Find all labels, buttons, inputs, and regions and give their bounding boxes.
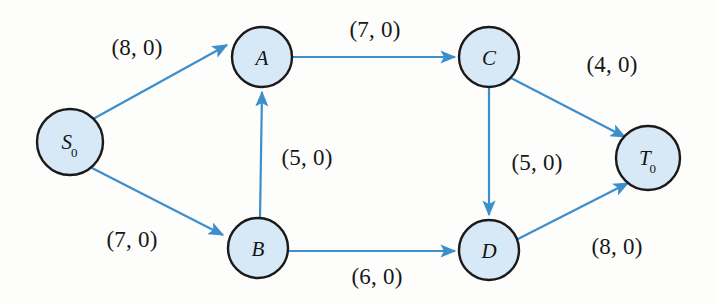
nodes-layer [37, 27, 680, 280]
edge-c-t0 [511, 78, 625, 137]
edge-d-t0 [516, 183, 628, 240]
node-a[interactable] [232, 27, 292, 87]
node-c[interactable] [459, 27, 519, 87]
edge-s0-b [90, 167, 223, 235]
node-d[interactable] [459, 220, 519, 280]
network-graph-canvas [0, 0, 718, 303]
edge-s0-a [93, 45, 227, 119]
network-flow-diagram: S0 A B C D T0 (8, 0) (7, 0) (7, 0) (5, 0… [0, 0, 718, 303]
node-t0[interactable] [616, 126, 680, 190]
node-b[interactable] [228, 218, 288, 278]
node-s0[interactable] [37, 109, 103, 175]
edge-b-a [260, 92, 262, 218]
edges-layer [90, 45, 628, 251]
